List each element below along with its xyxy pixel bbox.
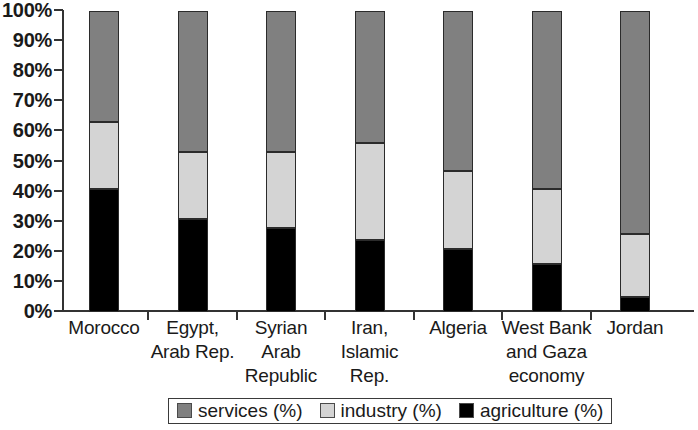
bar-segment-industry[interactable] [620, 234, 650, 297]
bar-segment-services[interactable] [443, 11, 473, 171]
bar-segment-industry[interactable] [89, 122, 119, 188]
x-axis-tick-mark [590, 312, 592, 320]
bar-segment-industry[interactable] [443, 171, 473, 249]
bar-column [74, 1, 134, 312]
bar-segment-agriculture[interactable] [89, 189, 119, 312]
y-axis-tick-mark [54, 99, 63, 101]
chart-legend: services (%)industry (%)agriculture (%) [168, 398, 612, 424]
legend-label: industry (%) [341, 401, 442, 420]
legend-item[interactable]: services (%) [177, 401, 303, 420]
legend-swatch-icon [459, 403, 474, 418]
y-axis-tick-mark [54, 39, 63, 41]
bar-column [340, 1, 400, 312]
x-axis-tick-mark [147, 312, 149, 320]
category-label-line: and Gaza [493, 340, 601, 364]
bar-column [517, 1, 577, 312]
category-label-line: economy [493, 364, 601, 388]
y-axis-tick-mark [54, 129, 63, 131]
y-axis-tick-mark [54, 250, 63, 252]
bar-segment-industry[interactable] [532, 189, 562, 264]
x-axis-category-label: Jordan [581, 316, 689, 340]
x-axis-tick-mark [324, 312, 326, 320]
category-label-line: Islamic [316, 340, 424, 364]
bar-column [251, 1, 311, 312]
legend-swatch-icon [177, 403, 192, 418]
bar-column [428, 1, 488, 312]
x-axis-tick-mark [236, 312, 238, 320]
bar-segment-services[interactable] [532, 11, 562, 189]
legend-swatch-icon [320, 403, 335, 418]
bar-segment-agriculture[interactable] [532, 264, 562, 312]
bar-segment-agriculture[interactable] [355, 240, 385, 312]
bar-segment-industry[interactable] [266, 152, 296, 227]
bar-segment-industry[interactable] [355, 143, 385, 239]
legend-item[interactable]: industry (%) [320, 401, 442, 420]
y-axis-tick-mark [54, 9, 63, 11]
bar-segment-services[interactable] [178, 11, 208, 152]
stacked-bar[interactable] [355, 11, 385, 312]
bar-column [163, 1, 223, 312]
y-axis-tick-mark [54, 69, 63, 71]
stacked-bar[interactable] [89, 11, 119, 312]
category-label-line: Jordan [581, 316, 689, 340]
bar-segment-agriculture[interactable] [266, 228, 296, 312]
stacked-bar[interactable] [266, 11, 296, 312]
y-axis-tick-mark [54, 160, 63, 162]
y-axis-tick-mark [54, 190, 63, 192]
legend-label: agriculture (%) [480, 401, 604, 420]
bar-segment-services[interactable] [89, 11, 119, 122]
bar-segment-agriculture[interactable] [620, 297, 650, 312]
y-axis-tick-mark [54, 280, 63, 282]
stacked-bar[interactable] [443, 11, 473, 312]
stacked-bar[interactable] [532, 11, 562, 312]
bar-segment-agriculture[interactable] [178, 219, 208, 312]
stacked-bar[interactable] [178, 11, 208, 312]
category-label-line: Rep. [316, 364, 424, 388]
legend-label: services (%) [198, 401, 303, 420]
stacked-bar[interactable] [620, 11, 650, 312]
bar-column [605, 1, 665, 312]
bar-segment-services[interactable] [355, 11, 385, 143]
bar-segment-services[interactable] [266, 11, 296, 152]
bar-segment-industry[interactable] [178, 152, 208, 218]
x-axis-tick-mark [501, 312, 503, 320]
x-axis-tick-mark [413, 312, 415, 320]
y-axis-tick-mark [54, 220, 63, 222]
y-axis-tick-mark [54, 310, 63, 312]
bar-segment-agriculture[interactable] [443, 249, 473, 312]
plot-area [0, 0, 698, 312]
x-axis-category-labels: MoroccoEgypt,Arab Rep.SyrianArabRepublic… [0, 316, 698, 390]
legend-item[interactable]: agriculture (%) [459, 401, 604, 420]
bar-segment-services[interactable] [620, 11, 650, 234]
stacked-bar-chart: 0%10%20%30%40%50%60%70%80%90%100% Morocc… [0, 0, 698, 430]
